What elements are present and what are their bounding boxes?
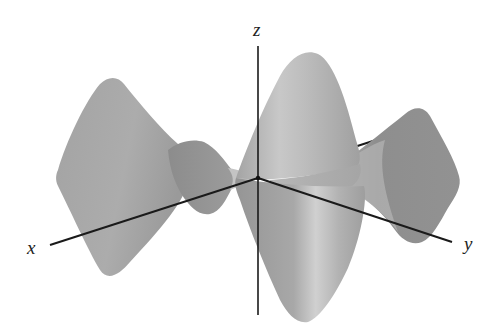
surface-center-upper — [236, 52, 360, 180]
x-axis-label: x — [27, 238, 35, 257]
origin-point — [256, 176, 260, 180]
surface-center-lower — [235, 178, 365, 322]
surface-left-lobe — [56, 78, 188, 276]
z-axis-label: z — [253, 20, 260, 39]
y-axis-label: y — [464, 234, 472, 253]
surface-plot — [0, 0, 490, 333]
